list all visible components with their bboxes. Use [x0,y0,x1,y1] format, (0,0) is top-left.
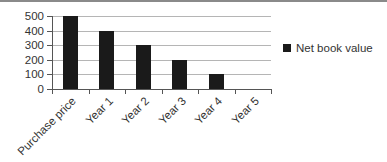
x-tick-label: Purchase price [15,95,78,158]
x-tick-label: Year 5 [229,95,261,127]
legend-swatch [283,44,291,52]
y-tick-label: 200 [20,54,44,66]
y-tick-label: 300 [20,39,44,51]
x-tick-mark [89,89,90,94]
bar-year-3 [172,60,187,89]
x-tick-label: Year 4 [192,95,224,127]
bar-year-1 [99,31,114,89]
bar-year-4 [209,74,224,89]
y-tick-label: 100 [20,68,44,80]
x-tick-label: Year 3 [156,95,188,127]
x-tick-label: Year 1 [83,95,115,127]
gridline [52,16,271,17]
y-tick-label: 400 [20,25,44,37]
legend: Net book value [283,42,373,54]
bar-purchase-price [63,16,78,89]
bar-chart: 0100200300400500Purchase priceYear 1Year… [0,0,387,162]
x-tick-mark [271,89,272,94]
y-tick-label: 0 [20,83,44,95]
x-tick-mark [198,89,199,94]
gridline [52,60,271,61]
x-tick-mark [235,89,236,94]
x-tick-label: Year 2 [119,95,151,127]
y-tick-label: 500 [20,10,44,22]
y-axis [52,16,53,90]
bar-year-2 [136,45,151,89]
legend-label: Net book value [296,42,373,54]
gridline [52,45,271,46]
x-tick-mark [52,89,53,94]
gridline [52,31,271,32]
x-tick-mark [125,89,126,94]
gridline [52,74,271,75]
x-tick-mark [162,89,163,94]
